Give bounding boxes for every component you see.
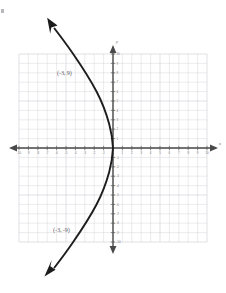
y-tick-label: -2 (116, 165, 119, 169)
x-tick-label: -7 (46, 151, 49, 155)
y-tick-label: -5 (116, 193, 119, 197)
x-axis-label: x (218, 141, 221, 146)
y-axis-label: y (115, 39, 118, 44)
y-tick-label: -1 (116, 156, 119, 160)
lower-point-label: (-3, -9) (53, 226, 70, 234)
y-tick-label: -7 (116, 212, 119, 216)
scan-artifact-mark (1, 9, 4, 13)
x-tick-label: -8 (37, 151, 40, 155)
x-tick-label: -6 (55, 151, 58, 155)
x-tick-label: -3 (84, 151, 87, 155)
y-tick-label: 10 (116, 52, 120, 56)
x-tick-label: -10 (17, 151, 22, 155)
y-tick-label: -6 (116, 203, 119, 207)
y-tick-label: -9 (116, 231, 119, 235)
y-tick-label: -8 (116, 221, 119, 225)
x-tick-label: 10 (205, 151, 209, 155)
x-tick-label: -2 (93, 151, 96, 155)
x-tick-label: -9 (27, 151, 30, 155)
y-tick-label: -10 (116, 240, 121, 244)
graph-figure: -10-9-8-7-6-5-4-3-2-112345678910-10-9-8-… (0, 0, 226, 293)
y-tick-label: -4 (116, 184, 119, 188)
x-tick-label: -1 (102, 151, 105, 155)
x-tick-label: -5 (65, 151, 68, 155)
coordinate-plane-graph: -10-9-8-7-6-5-4-3-2-112345678910-10-9-8-… (0, 0, 226, 293)
x-tick-label: -4 (74, 151, 77, 155)
upper-point-label: (-3, 9) (57, 69, 72, 77)
y-tick-label: -3 (116, 174, 119, 178)
